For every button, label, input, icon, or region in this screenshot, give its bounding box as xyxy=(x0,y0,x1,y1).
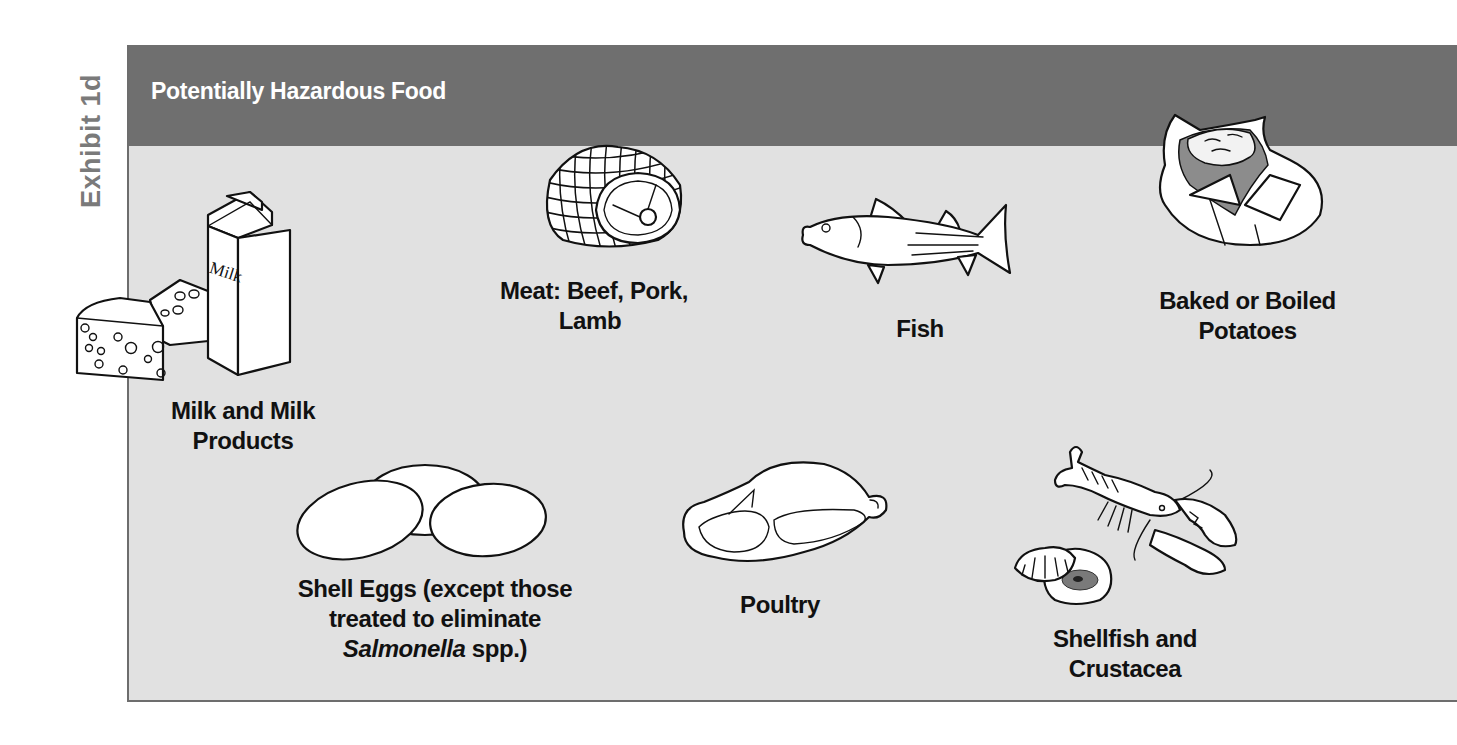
caption-line: Poultry xyxy=(720,590,840,620)
caption-eggs: Shell Eggs (except those treated to elim… xyxy=(255,574,615,664)
caption-line: Lamb xyxy=(500,306,680,336)
caption-line: Shell Eggs (except those xyxy=(255,574,615,604)
caption-meat: Meat: Beef, Pork, Lamb xyxy=(500,276,680,336)
netted-roast-icon xyxy=(538,135,688,250)
eggs-icon xyxy=(300,460,540,560)
caption-line: Meat: Beef, Pork, xyxy=(500,276,680,306)
caption-line: treated to eliminate xyxy=(255,604,615,634)
fish-icon xyxy=(798,195,1038,295)
caption-fish: Fish xyxy=(870,314,970,344)
caption-line: Salmonella spp.) xyxy=(255,634,615,664)
caption-line: Crustacea xyxy=(1030,654,1220,684)
caption-poultry: Poultry xyxy=(720,590,840,620)
caption-shellfish: Shellfish and Crustacea xyxy=(1030,624,1220,684)
lobster-and-clam-icon xyxy=(1010,440,1250,610)
caption-line: Baked or Boiled xyxy=(1140,286,1355,316)
caption-line: Potatoes xyxy=(1140,316,1355,346)
caption-line: Products xyxy=(150,426,336,456)
caption-potatoes: Baked or Boiled Potatoes xyxy=(1140,286,1355,346)
roast-poultry-icon xyxy=(674,452,894,572)
panel-title: Potentially Hazardous Food xyxy=(151,78,446,105)
caption-line: Milk and Milk xyxy=(150,396,336,426)
caption-milk: Milk and Milk Products xyxy=(150,396,336,456)
caption-tail: spp.) xyxy=(466,635,528,662)
caption-line: Fish xyxy=(870,314,970,344)
milk-carton-and-cheese-icon: Milk xyxy=(60,180,300,380)
caption-line: Shellfish and xyxy=(1030,624,1220,654)
caption-italic-organism: Salmonella xyxy=(343,635,466,662)
baked-potato-icon xyxy=(1150,105,1335,250)
